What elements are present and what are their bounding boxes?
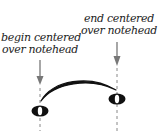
slur-curve	[41, 81, 116, 101]
right-arrow-icon	[114, 42, 121, 66]
slur-diagram	[0, 0, 159, 137]
right-notehead-icon	[109, 94, 126, 105]
left-arrow-icon	[37, 60, 44, 85]
left-notehead-icon	[32, 106, 49, 117]
